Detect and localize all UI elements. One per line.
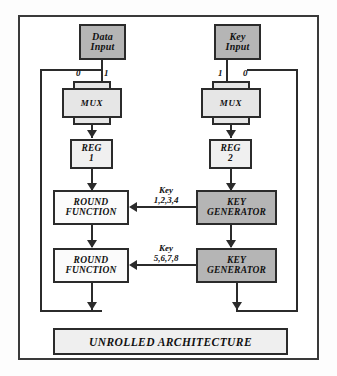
round-function-1-line1: ROUND	[74, 198, 109, 208]
key-input-box: Key Input	[214, 24, 261, 60]
key-feedback-vertical	[296, 69, 298, 312]
key-generator-2-line1: KEY	[227, 256, 246, 266]
key-reg-box: REG 2	[209, 139, 252, 169]
key-reg-index: 2	[228, 154, 233, 164]
key-generator-1: KEY GENERATOR	[196, 190, 277, 225]
key-mux-to-reg-arrow	[226, 130, 236, 138]
data-reg-box: REG 1	[70, 139, 113, 169]
diagram-canvas: Data Input 0 1 MUX REG 1 ROUND FUNCTION …	[0, 0, 337, 376]
unrolled-architecture-banner: UNROLLED ARCHITECTURE	[53, 328, 288, 355]
data-input-line2: Input	[91, 42, 115, 53]
key-signal-2-arrow	[129, 260, 137, 270]
key-signal-1-label: Key 1,2,3,4	[140, 186, 192, 206]
key-mux-select-1: 1	[218, 68, 223, 78]
key-signal-2-numbers: 5,6,7,8	[140, 254, 192, 264]
key-signal-1-line	[133, 206, 196, 208]
data-mux-select-0: 0	[76, 68, 81, 78]
unrolled-architecture-label: UNROLLED ARCHITECTURE	[89, 336, 252, 348]
key-signal-1-arrow	[129, 202, 137, 212]
round-function-2-line2: FUNCTION	[65, 266, 116, 276]
key-generator-2: KEY GENERATOR	[196, 248, 277, 283]
gen2-to-feedback-arrow	[232, 302, 242, 310]
key-generator-1-line1: KEY	[227, 198, 246, 208]
key-feedback-bottom	[236, 310, 298, 312]
key-generator-1-line2: GENERATOR	[207, 208, 266, 218]
gen1-to-gen2-arrow	[226, 240, 236, 248]
data-mux-select-1: 1	[104, 68, 109, 78]
round2-to-feedback-arrow	[87, 302, 97, 310]
key-input-to-mux-line	[226, 60, 228, 82]
round-function-2: ROUND FUNCTION	[53, 248, 129, 283]
round-function-2-line1: ROUND	[74, 256, 109, 266]
round-function-1-line2: FUNCTION	[65, 208, 116, 218]
data-mux-to-reg-arrow	[87, 130, 97, 138]
data-mux: MUX	[62, 88, 122, 118]
data-mux-label: MUX	[81, 98, 103, 108]
key-input-line2: Input	[226, 42, 250, 53]
data-reg-index: 1	[89, 154, 94, 164]
key-feedback-top	[247, 69, 298, 71]
data-input-box: Data Input	[79, 24, 126, 60]
round-function-1: ROUND FUNCTION	[53, 190, 129, 225]
key-mux-select-0: 0	[243, 68, 248, 78]
key-mux-label: MUX	[220, 98, 242, 108]
key-generator-2-line2: GENERATOR	[207, 266, 266, 276]
key-signal-2-label: Key 5,6,7,8	[140, 244, 192, 264]
data-feedback-top	[40, 69, 102, 71]
key-signal-2-line	[133, 264, 196, 266]
round1-to-round2-arrow	[87, 240, 97, 248]
data-input-to-mux-line	[101, 60, 103, 82]
key-signal-1-numbers: 1,2,3,4	[140, 196, 192, 206]
key-mux: MUX	[201, 88, 261, 118]
data-feedback-vertical	[40, 69, 42, 312]
